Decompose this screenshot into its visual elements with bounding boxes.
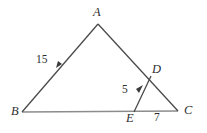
segment-ed bbox=[134, 76, 151, 112]
measure-label-ba: 15 bbox=[36, 54, 48, 66]
measure-label-ec: 7 bbox=[154, 112, 160, 124]
segment-ac bbox=[98, 24, 178, 111]
vertex-label-b: B bbox=[11, 105, 19, 118]
triangle-diagram-svg bbox=[0, 0, 207, 133]
vertex-label-c: C bbox=[184, 104, 192, 117]
segment-ba bbox=[22, 24, 98, 112]
measure-label-ed: 5 bbox=[122, 84, 128, 96]
geometry-figure: A B C D E 15 5 7 bbox=[0, 0, 207, 133]
vertex-label-d: D bbox=[152, 63, 161, 76]
vertex-label-a: A bbox=[93, 6, 101, 19]
vertex-label-e: E bbox=[126, 112, 134, 125]
arrowhead-ed-icon bbox=[136, 85, 143, 93]
